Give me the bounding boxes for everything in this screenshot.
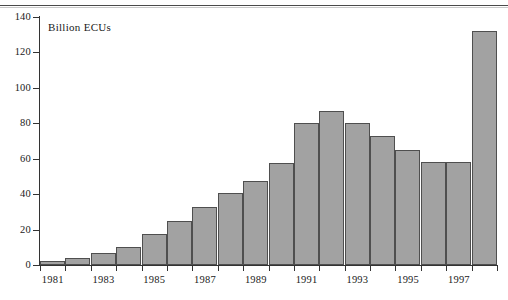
- y-axis-tick: [33, 17, 39, 18]
- y-axis-tick: [33, 230, 39, 231]
- x-axis-tick-label: 1981: [28, 274, 78, 285]
- y-axis-tick-label: 20: [0, 225, 31, 236]
- x-axis-tick-label: 1983: [78, 274, 128, 285]
- x-axis-tick-label: 1993: [332, 274, 382, 285]
- bar: [40, 261, 65, 265]
- y-axis-tick-label-text: 20: [1, 225, 31, 236]
- bar: [142, 234, 167, 265]
- y-axis-tick: [33, 123, 39, 124]
- x-axis-tick: [395, 266, 396, 271]
- x-axis-tick: [446, 266, 447, 271]
- bar: [192, 207, 217, 265]
- y-axis-tick-label-text: 140: [1, 12, 31, 23]
- x-axis-tick-label: 1997: [434, 274, 484, 285]
- x-axis-tick: [91, 266, 92, 271]
- x-axis-tick: [345, 266, 346, 271]
- x-axis-tick: [472, 266, 473, 271]
- x-axis-tick-label: 1995: [383, 274, 433, 285]
- bar: [446, 162, 471, 265]
- y-axis-tick-label: 80: [0, 118, 31, 129]
- bar: [167, 221, 192, 265]
- bar: [116, 247, 141, 265]
- x-axis-tick: [40, 266, 41, 271]
- y-axis-tick-label: 140: [0, 12, 31, 23]
- bar: [91, 253, 116, 265]
- y-axis-tick-label-text: 0: [1, 260, 31, 271]
- bar: [472, 31, 497, 265]
- bar: [243, 181, 268, 265]
- bar: [421, 162, 446, 265]
- bar: [65, 258, 90, 265]
- y-axis-tick-label: 0: [0, 260, 31, 271]
- y-axis-line: [39, 16, 40, 266]
- y-axis-tick-label-text: 100: [1, 83, 31, 94]
- bar: [319, 111, 344, 265]
- y-axis-tick-label: 60: [0, 154, 31, 165]
- chart-figure: 020406080100120140 198119831985198719891…: [0, 0, 508, 300]
- y-axis-tick: [33, 265, 39, 266]
- x-axis-tick: [192, 266, 193, 271]
- y-axis-tick-label-text: 120: [1, 47, 31, 58]
- x-axis-tick: [497, 266, 498, 271]
- x-axis-tick: [167, 266, 168, 271]
- bar: [395, 150, 420, 265]
- bar-chart-plot: 020406080100120140 198119831985198719891…: [0, 0, 508, 300]
- x-axis-tick-label: 1991: [282, 274, 332, 285]
- x-axis-tick: [218, 266, 219, 271]
- bar: [269, 163, 294, 265]
- y-axis-tick-label-text: 80: [1, 118, 31, 129]
- y-axis-unit-label: Billion ECUs: [48, 21, 111, 33]
- bar: [345, 123, 370, 265]
- y-axis-tick-label: 40: [0, 189, 31, 200]
- bar: [294, 123, 319, 265]
- y-axis-tick: [33, 194, 39, 195]
- x-axis-tick: [269, 266, 270, 271]
- y-axis-tick-label-text: 60: [1, 154, 31, 165]
- x-axis-tick: [116, 266, 117, 271]
- bar: [370, 136, 395, 265]
- x-axis-tick-label: 1987: [180, 274, 230, 285]
- x-axis-tick-label: 1985: [129, 274, 179, 285]
- x-axis-tick: [370, 266, 371, 271]
- bar: [218, 193, 243, 265]
- x-axis-tick: [243, 266, 244, 271]
- y-axis-tick: [33, 159, 39, 160]
- x-axis-tick: [294, 266, 295, 271]
- x-axis-tick: [421, 266, 422, 271]
- x-axis-tick: [319, 266, 320, 271]
- y-axis-tick-label-text: 40: [1, 189, 31, 200]
- y-axis-tick: [33, 88, 39, 89]
- x-axis-tick: [142, 266, 143, 271]
- y-axis-tick-label: 100: [0, 83, 31, 94]
- y-axis-tick-label: 120: [0, 47, 31, 58]
- x-axis-tick-label: 1989: [231, 274, 281, 285]
- x-axis-tick: [65, 266, 66, 271]
- y-axis-tick: [33, 52, 39, 53]
